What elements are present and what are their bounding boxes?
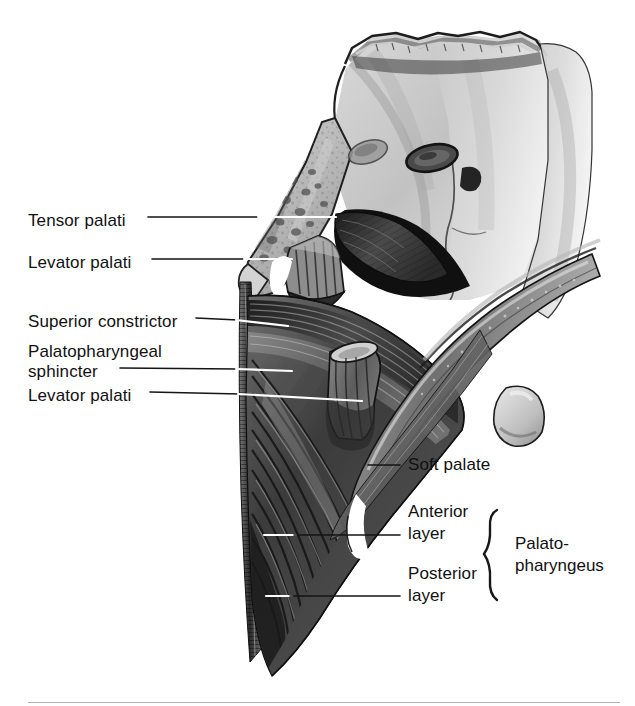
label-palatopharyngeal-line2: sphincter: [28, 362, 98, 382]
label-palatopharyngeal-line1: Palatopharyngeal: [28, 342, 162, 362]
levator-palati-lower-muscle: [326, 338, 381, 450]
uvula-nodule: [494, 386, 545, 446]
label-posterior-layer-2: layer: [408, 586, 445, 606]
label-levator-palati-lower: Levator palati: [28, 386, 131, 406]
label-anterior-layer-1: Anterior: [408, 502, 468, 522]
label-palatopharyngeus-line1: Palato-: [515, 533, 569, 554]
palatopharyngeus-brace: [484, 510, 497, 600]
footer-rule: [28, 702, 620, 703]
label-tensor-palati: Tensor palati: [28, 211, 126, 231]
label-superior-constrictor: Superior constrictor: [28, 312, 177, 332]
label-palatopharyngeus-line2: pharyngeus: [515, 555, 604, 576]
label-soft-palate: Soft palate: [408, 455, 490, 475]
label-anterior-layer-2: layer: [408, 524, 445, 544]
figure-page: Tensor palati Levator palati Superior co…: [0, 0, 635, 706]
label-levator-palati-upper: Levator palati: [28, 253, 131, 273]
label-posterior-layer-1: Posterior: [408, 564, 477, 584]
